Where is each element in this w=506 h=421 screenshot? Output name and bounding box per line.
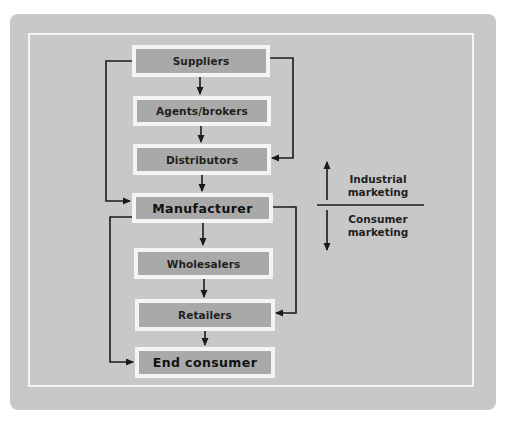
node-label: Distributors xyxy=(166,154,238,166)
label-line: Industrial xyxy=(338,173,418,186)
node-retailers: Retailers xyxy=(135,299,275,331)
node-manufacturer: Manufacturer xyxy=(132,193,273,223)
node-end-consumer: End consumer xyxy=(135,347,275,378)
node-label: Wholesalers xyxy=(167,258,241,270)
label-line: marketing xyxy=(338,186,418,199)
node-label: Suppliers xyxy=(173,55,230,67)
label-line: marketing xyxy=(338,226,418,239)
label-line: Consumer xyxy=(338,213,418,226)
node-wholesalers: Wholesalers xyxy=(134,248,273,279)
node-label: Agents/brokers xyxy=(156,105,248,117)
node-label: Manufacturer xyxy=(152,201,252,216)
node-distributors: Distributors xyxy=(133,144,271,175)
industrial-marketing-label: Industrial marketing xyxy=(338,173,418,199)
node-agents-brokers: Agents/brokers xyxy=(133,96,271,126)
consumer-marketing-label: Consumer marketing xyxy=(338,213,418,239)
node-label: End consumer xyxy=(153,355,257,370)
node-suppliers: Suppliers xyxy=(132,45,270,77)
node-label: Retailers xyxy=(178,309,232,321)
